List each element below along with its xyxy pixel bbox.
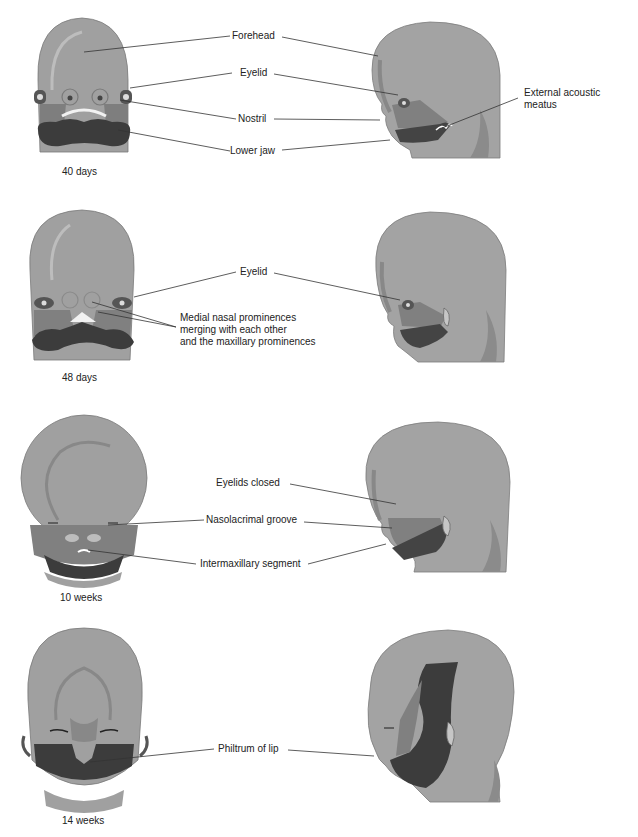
lateral-head-10-weeks bbox=[366, 422, 510, 572]
label-eyelids-closed: Eyelids closed bbox=[216, 477, 280, 489]
label-lower-jaw: Lower jaw bbox=[230, 145, 275, 157]
lateral-head-14-weeks bbox=[368, 630, 514, 802]
frontal-head-48-days bbox=[30, 210, 134, 360]
label-nasolacrimal-groove: Nasolacrimal groove bbox=[206, 514, 297, 526]
frontal-head-10-weeks bbox=[21, 415, 147, 588]
frontal-head-14-weeks bbox=[23, 628, 147, 813]
label-external-acoustic-meatus-2: meatus bbox=[524, 99, 557, 111]
label-medial-nasal-2: merging with each other bbox=[180, 324, 287, 336]
lateral-head-40-days bbox=[372, 22, 500, 158]
label-medial-nasal-3: and the maxillary prominences bbox=[180, 336, 316, 348]
label-eyelid-40-days: Eyelid bbox=[240, 67, 267, 79]
stage-label-10-weeks: 10 weeks bbox=[60, 592, 102, 603]
stage-label-14-weeks: 14 weeks bbox=[62, 815, 104, 826]
face-development-figure bbox=[0, 0, 638, 837]
stage-label-40-days: 40 days bbox=[62, 166, 97, 177]
label-medial-nasal-1: Medial nasal prominences bbox=[180, 312, 296, 324]
label-external-acoustic-meatus-1: External acoustic bbox=[524, 87, 600, 99]
frontal-head-40-days bbox=[34, 18, 132, 152]
stage-label-48-days: 48 days bbox=[62, 372, 97, 383]
label-intermaxillary-segment: Intermaxillary segment bbox=[200, 558, 301, 570]
label-philtrum-of-lip: Philtrum of lip bbox=[218, 743, 279, 755]
label-nostril: Nostril bbox=[238, 113, 266, 125]
lateral-head-48-days bbox=[376, 212, 506, 362]
label-forehead: Forehead bbox=[232, 30, 275, 42]
label-eyelid-48-days: Eyelid bbox=[240, 266, 267, 278]
